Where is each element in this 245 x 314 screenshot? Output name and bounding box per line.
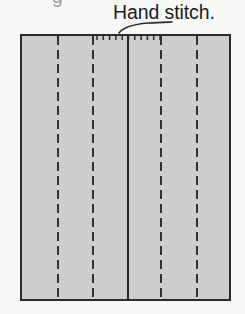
sewing-diagram: g Hand stitch. [0, 0, 245, 314]
leader-line-icon [119, 22, 172, 33]
fabric-panel [21, 35, 230, 300]
fabric-figure [0, 0, 245, 314]
